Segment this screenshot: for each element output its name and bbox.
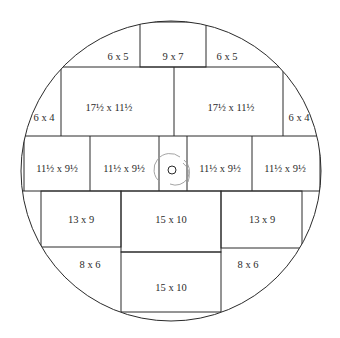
label-right-6x4: 6 x 4 — [289, 112, 311, 123]
label-left-6x4: 6 x 4 — [34, 112, 56, 123]
label-upper-right-17x11: 17½ x 11½ — [208, 102, 255, 113]
label-bottom-left-8x6: 8 x 6 — [80, 259, 101, 270]
label-top-center-9x7: 9 x 7 — [163, 51, 184, 62]
label-bottom-right-8x6: 8 x 6 — [238, 259, 259, 270]
label-lower-center-15x10: 15 x 10 — [155, 214, 187, 225]
label-middle-1-11x9: 11½ x 9½ — [36, 163, 78, 174]
label-middle-3-11x9: 11½ x 9½ — [199, 163, 241, 174]
cutting-layout-diagram: 6 x 5 9 x 7 6 x 5 6 x 4 17½ x 11½ 17½ x … — [0, 0, 340, 338]
label-middle-2-11x9: 11½ x 9½ — [103, 163, 145, 174]
label-middle-4-11x9: 11½ x 9½ — [264, 163, 306, 174]
label-lower-right-13x9: 13 x 9 — [249, 214, 275, 225]
label-lower-left-13x9: 13 x 9 — [68, 214, 94, 225]
label-top-left-6x5: 6 x 5 — [108, 51, 129, 62]
label-upper-left-17x11: 17½ x 11½ — [86, 102, 133, 113]
label-bottom-center-15x10: 15 x 10 — [155, 282, 187, 293]
label-top-right-6x5: 6 x 5 — [217, 51, 238, 62]
